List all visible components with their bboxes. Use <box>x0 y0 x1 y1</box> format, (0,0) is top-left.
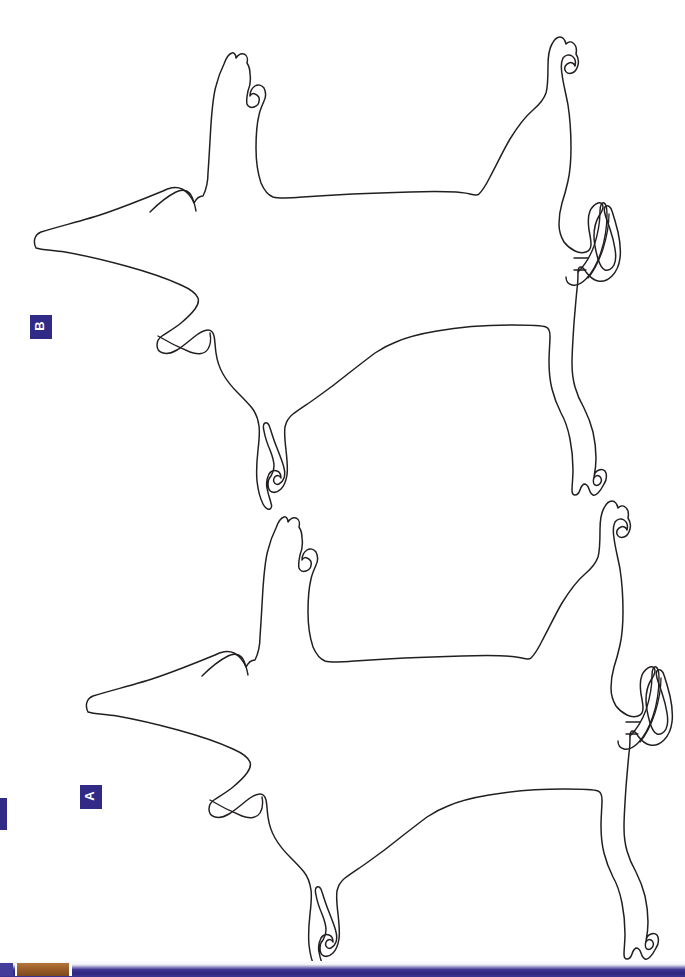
pig-tail-base-a <box>626 722 640 734</box>
panel-label-b: B <box>30 315 52 339</box>
panel-label-a-text: A <box>79 784 101 808</box>
bottom-scan-bar <box>0 963 685 977</box>
bottom-scan-bar-left-segment <box>0 963 13 976</box>
pig-outline-b <box>34 37 620 509</box>
pig-front-ear-line-b <box>158 333 211 354</box>
pig-tail-b <box>566 203 607 285</box>
pig-outline-a <box>86 501 672 973</box>
pig-ear-line-a <box>202 654 248 676</box>
figure-page: B A <box>0 0 685 977</box>
left-edge-scan-mark <box>0 798 8 830</box>
pig-front-ear-line-a <box>210 797 263 818</box>
panel-label-b-text: B <box>29 314 51 338</box>
pig-outline-svg <box>0 0 685 977</box>
pig-tail-inner-a <box>640 678 661 742</box>
pig-tail-a <box>618 667 659 749</box>
pig-body-path-b <box>34 37 620 509</box>
pig-ear-line-b <box>150 190 196 212</box>
pig-tail-inner-b <box>588 214 609 278</box>
pig-body-path-a <box>86 501 672 973</box>
pig-tail-base-b <box>574 258 588 270</box>
figure-artwork-layer <box>0 0 685 977</box>
bottom-scan-bar-tan-segment <box>15 963 72 976</box>
panel-label-a: A <box>80 785 102 809</box>
